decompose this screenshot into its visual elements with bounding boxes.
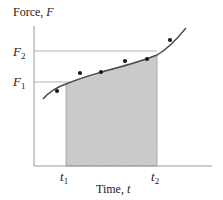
- data-point: [99, 70, 103, 74]
- x-axis-label-text: Time,: [96, 182, 127, 196]
- y-axis-label-text: Force,: [13, 5, 46, 19]
- tick-f2-subscript: 2: [21, 51, 26, 61]
- data-point: [145, 57, 149, 61]
- y-axis-variable: F: [46, 5, 53, 19]
- tick-t2: t2: [151, 170, 159, 186]
- tick-t1: t1: [60, 170, 68, 186]
- data-point: [168, 38, 172, 42]
- tick-f1-subscript: 1: [21, 81, 26, 91]
- data-point: [78, 71, 82, 75]
- x-axis-label: Time, t: [96, 183, 130, 195]
- tick-f1-symbol: F: [13, 74, 21, 89]
- tick-f1: F1: [13, 75, 25, 91]
- x-axis-variable: t: [127, 182, 130, 196]
- y-axis-label: Force, F: [13, 6, 54, 18]
- data-point: [55, 89, 59, 93]
- tick-f2: F2: [13, 45, 25, 61]
- tick-f2-symbol: F: [13, 44, 21, 59]
- force-time-diagram: [0, 0, 223, 200]
- tick-t2-subscript: 2: [155, 176, 160, 186]
- data-point: [123, 59, 127, 63]
- tick-t1-subscript: 1: [64, 176, 69, 186]
